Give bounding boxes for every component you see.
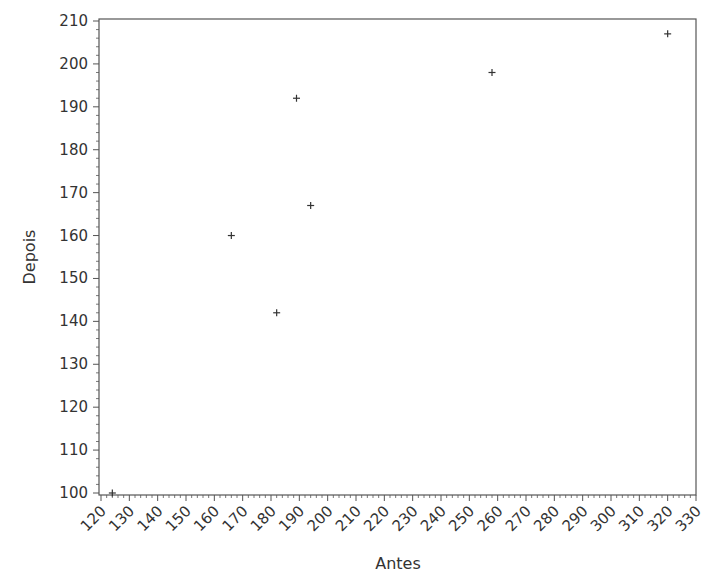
plot-area: [99, 19, 696, 495]
x-tick-label: 250: [445, 502, 478, 535]
x-tick-label: 160: [190, 502, 223, 535]
x-axis-title: Antes: [375, 554, 421, 573]
y-axis: 100110120130140150160170180190200210: [59, 12, 99, 502]
x-tick-label: 330: [672, 502, 705, 535]
x-tick-label: 280: [530, 502, 563, 535]
x-tick-label: 240: [417, 502, 450, 535]
y-tick-label: 150: [59, 269, 88, 287]
y-tick-label: 190: [59, 98, 88, 116]
y-tick-label: 110: [59, 441, 88, 459]
y-tick-label: 120: [59, 398, 88, 416]
x-tick-label: 170: [219, 502, 252, 535]
y-tick-label: 180: [59, 141, 88, 159]
y-tick-label: 130: [59, 355, 88, 373]
y-tick-label: 100: [59, 484, 88, 502]
y-tick-label: 210: [59, 12, 88, 30]
y-tick-label: 140: [59, 312, 88, 330]
x-tick-label: 200: [304, 502, 337, 535]
x-tick-label: 310: [615, 502, 648, 535]
x-tick-label: 300: [587, 502, 620, 535]
x-tick-label: 260: [474, 502, 507, 535]
y-tick-label: 170: [59, 184, 88, 202]
y-tick-label: 200: [59, 55, 88, 73]
y-tick-label: 160: [59, 227, 88, 245]
x-tick-label: 150: [162, 502, 195, 535]
x-tick-label: 190: [275, 502, 308, 535]
x-axis: 1201301401501601701801902002102202302402…: [77, 495, 705, 535]
y-axis-title: Depois: [20, 230, 39, 285]
x-tick-label: 120: [77, 502, 110, 535]
x-tick-label: 290: [559, 502, 592, 535]
x-tick-label: 270: [502, 502, 535, 535]
x-tick-label: 180: [247, 502, 280, 535]
scatter-chart: 100110120130140150160170180190200210 120…: [0, 0, 719, 583]
x-tick-label: 140: [134, 502, 167, 535]
x-tick-label: 210: [332, 502, 365, 535]
x-tick-label: 320: [644, 502, 677, 535]
x-tick-label: 220: [360, 502, 393, 535]
x-tick-label: 130: [105, 502, 138, 535]
x-tick-label: 230: [389, 502, 422, 535]
